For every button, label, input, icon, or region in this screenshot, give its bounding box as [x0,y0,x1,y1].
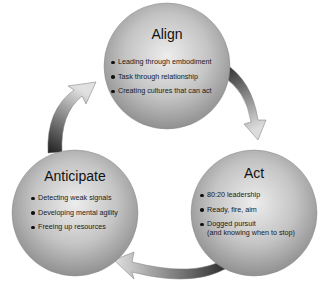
act-title: Act [204,165,304,181]
align-item: Leading through embodiment [111,58,212,67]
act-item: 80:20 leadership [200,191,295,200]
anticipate-items: Detecting weak signals Developing mental… [31,194,118,238]
align-title: Align [117,26,217,42]
cycle-diagram-graphics [0,0,328,300]
align-items: Leading through embodiment Task through … [111,58,212,102]
anticipate-title: Anticipate [25,168,125,184]
anticipate-item: Developing mental agility [31,209,118,218]
anticipate-item: Detecting weak signals [31,194,118,203]
anticipate-item: Freeing up resources [31,223,118,232]
act-item: Ready, fire, aim [200,206,295,215]
act-items: 80:20 leadership Ready, fire, aim Dogged… [200,191,295,243]
align-item: Creating cultures that can act [111,87,212,96]
act-item-continuation: (and knowing when to stop) [200,229,295,238]
align-item: Task through relationship [111,73,212,82]
arrow-anticipate-to-align [48,82,96,153]
